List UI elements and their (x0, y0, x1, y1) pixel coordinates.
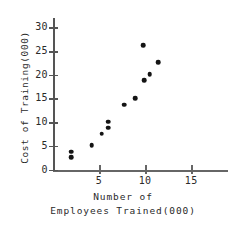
y-tick-label: 15 (35, 92, 48, 103)
x-axis-line (53, 170, 228, 172)
x-axis-label-line-2: Employees Trained(000) (0, 204, 246, 218)
y-tick-mark (49, 27, 58, 29)
y-tick-label: 5 (42, 140, 48, 151)
x-tick-mark-10 (145, 165, 147, 174)
x-axis-label: Number of Employees Trained(000) (0, 190, 246, 218)
y-axis-line (53, 18, 55, 171)
y-tick-mark (49, 75, 58, 77)
data-point (89, 143, 94, 148)
x-tick-label: 15 (185, 175, 198, 186)
y-tick-label: 25 (35, 45, 48, 56)
x-tick-mark-15 (191, 165, 193, 174)
y-tick-label: 20 (35, 69, 48, 80)
data-point (69, 149, 74, 154)
data-point (122, 102, 127, 107)
y-tick-label: 30 (35, 21, 48, 32)
y-tick-mark (49, 122, 58, 124)
y-tick-mark (49, 146, 58, 148)
data-point (142, 78, 147, 83)
data-point (100, 131, 105, 136)
y-tick-mark (49, 51, 58, 53)
y-tick-label: 0 (42, 164, 48, 175)
y-axis-label: Cost of Training(000) (19, 18, 30, 178)
x-axis-label-line-1: Number of (0, 190, 246, 204)
data-point (106, 126, 111, 131)
x-tick-label: 5 (96, 175, 102, 186)
data-point (133, 96, 138, 101)
y-tick-mark (49, 170, 58, 172)
y-tick-mark (49, 98, 58, 100)
x-tick-label: 10 (139, 175, 152, 186)
data-point (69, 155, 74, 160)
x-tick-mark-5 (99, 165, 101, 174)
y-tick-label: 10 (35, 116, 48, 127)
scatter-plot-figure: Cost of Training(000) 051015202530 51015… (0, 0, 246, 226)
data-point (156, 60, 161, 65)
data-point (106, 119, 111, 124)
data-point (147, 72, 152, 77)
data-point (141, 43, 146, 48)
plot-area: 051015202530 51015 (53, 18, 228, 171)
